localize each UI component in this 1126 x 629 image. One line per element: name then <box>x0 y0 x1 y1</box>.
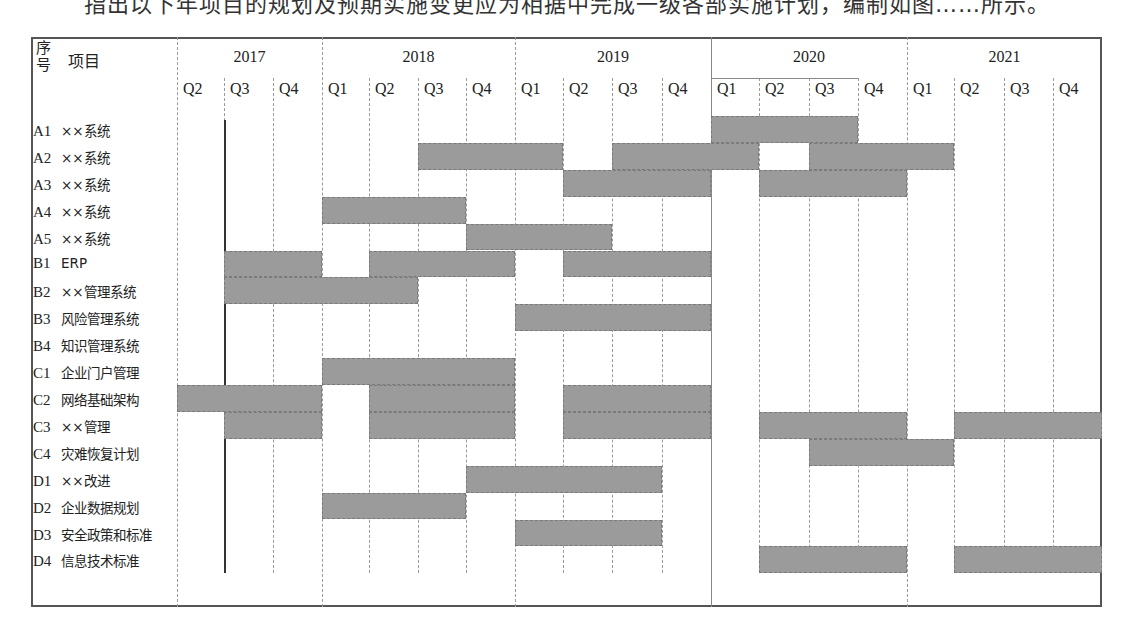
top-text-fragment: 指出以下年项目的规划及预期实施变更应为相据中完成一级各部实施计划，编制如图……所… <box>84 0 1050 18</box>
gantt-bar-A2 <box>809 143 954 170</box>
row-label-C3: C3××管理 <box>33 416 110 436</box>
gantt-bar-A4 <box>322 197 466 224</box>
gantt-bar-C4 <box>809 439 954 466</box>
row-name: ××管理 <box>61 419 110 435</box>
quarter-header-2019-Q3: Q3 <box>612 80 662 98</box>
year-divider <box>907 37 908 607</box>
gantt-bar-A2 <box>612 143 759 170</box>
quarter-header-2017-Q4: Q4 <box>273 80 322 98</box>
row-name: 知识管理系统 <box>61 338 139 354</box>
gantt-bar-B3 <box>515 304 711 331</box>
row-name: 灾难恢复计划 <box>61 446 139 462</box>
row-code: B2 <box>33 284 61 301</box>
quarter-header-2018-Q4: Q4 <box>466 80 515 98</box>
gantt-bar-C3 <box>563 412 711 439</box>
row-code: C2 <box>33 392 61 409</box>
gantt-bar-C2 <box>369 385 515 412</box>
gantt-bar-A3 <box>563 170 711 197</box>
quarter-header-2017-Q2: Q2 <box>177 80 224 98</box>
row-name: ××系统 <box>61 231 110 247</box>
quarter-header-2018-Q2: Q2 <box>369 80 418 98</box>
quarter-header-2021-Q2: Q2 <box>954 80 1004 98</box>
quarter-header-2021-Q1: Q1 <box>907 80 954 98</box>
gantt-bar-B1 <box>224 251 322 278</box>
row-code: A1 <box>33 123 61 140</box>
year-header-2021: 2021 <box>907 48 1102 66</box>
row-code: C4 <box>33 446 61 463</box>
row-label-D3: D3安全政策和标准 <box>33 524 152 544</box>
gantt-bar-D3 <box>515 520 662 547</box>
row-name: ××系统 <box>61 123 110 139</box>
row-name: 网络基础架构 <box>61 392 139 408</box>
item-header: 项目 <box>68 48 100 72</box>
year-divider <box>322 37 323 607</box>
gantt-bar-A3 <box>759 170 907 197</box>
row-label-C1: C1企业门户管理 <box>33 362 139 382</box>
quarter-divider <box>273 78 274 573</box>
row-label-A1: A1××系统 <box>33 120 110 140</box>
gantt-bar-D4 <box>954 546 1102 573</box>
label-column-divider <box>177 37 178 607</box>
row-code: D4 <box>33 553 61 570</box>
gantt-bar-A5 <box>466 224 612 251</box>
row-name: ××改进 <box>61 473 110 489</box>
row-code: A2 <box>33 150 61 167</box>
year-header-2019: 2019 <box>515 48 711 66</box>
quarter-header-2019-Q2: Q2 <box>563 80 612 98</box>
row-name: ERP <box>61 255 87 271</box>
row-name: 信息技术标准 <box>61 553 139 569</box>
gantt-bar-B1 <box>369 251 515 278</box>
row-code: D3 <box>33 527 61 544</box>
row-label-A4: A4××系统 <box>33 201 110 221</box>
year-header-2018: 2018 <box>322 48 515 66</box>
gantt-bar-C2 <box>177 385 322 412</box>
quarter-header-2017-Q3: Q3 <box>224 80 273 98</box>
row-label-D4: D4信息技术标准 <box>33 550 139 570</box>
row-label-B1: B1ERP <box>33 255 87 272</box>
row-code: B3 <box>33 311 61 328</box>
row-name: ××系统 <box>61 150 110 166</box>
row-code: D1 <box>33 473 61 490</box>
quarter-header-2020-Q1: Q1 <box>711 80 759 98</box>
row-name: 风险管理系统 <box>61 311 139 327</box>
quarter-header-2019-Q1: Q1 <box>515 80 563 98</box>
gantt-bar-A2 <box>418 143 563 170</box>
quarter-divider <box>1004 78 1005 573</box>
row-name: ××系统 <box>61 177 110 193</box>
quarter-divider <box>954 78 955 573</box>
row-label-B2: B2××管理系统 <box>33 281 136 301</box>
row-code: A4 <box>33 204 61 221</box>
row-name: ××管理系统 <box>61 284 136 300</box>
row-label-B3: B3风险管理系统 <box>33 308 139 328</box>
gantt-bar-B2 <box>224 277 418 304</box>
gantt-bar-C3 <box>369 412 515 439</box>
gantt-bar-C3 <box>954 412 1102 439</box>
quarter-header-2020-Q2: Q2 <box>759 80 809 98</box>
gantt-bar-C1 <box>322 358 515 385</box>
quarter-header-2021-Q3: Q3 <box>1004 80 1053 98</box>
row-label-C4: C4灾难恢复计划 <box>33 443 139 463</box>
quarter-header-2020-Q4: Q4 <box>858 80 907 98</box>
row-name: 企业门户管理 <box>61 365 139 381</box>
seq-header: 序号 <box>36 40 52 74</box>
row-code: D2 <box>33 500 61 517</box>
row-code: C1 <box>33 365 61 382</box>
gantt-bar-C3 <box>759 412 907 439</box>
year-header-2020: 2020 <box>711 48 907 66</box>
gantt-bar-A1 <box>711 116 858 143</box>
row-label-A5: A5××系统 <box>33 228 110 248</box>
row-label-B4: B4知识管理系统 <box>33 335 139 355</box>
quarter-divider <box>759 78 760 573</box>
row-code: B4 <box>33 338 61 355</box>
gantt-bar-D1 <box>466 466 662 493</box>
row-name: ××系统 <box>61 204 110 220</box>
gantt-bar-D4 <box>759 546 907 573</box>
header-accent-line <box>711 78 858 80</box>
row-code: A5 <box>33 231 61 248</box>
row-name: 企业数据规划 <box>61 500 139 516</box>
row-code: A3 <box>33 177 61 194</box>
row-label-D1: D1××改进 <box>33 470 110 490</box>
year-header-2017: 2017 <box>177 48 322 66</box>
highlight-divider <box>224 120 226 573</box>
row-label-C2: C2网络基础架构 <box>33 389 139 409</box>
